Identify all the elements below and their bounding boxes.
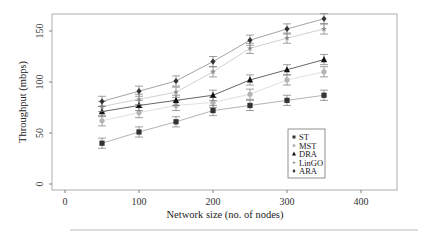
throughput-chart: 0100200300400050100150 STMSTDRALinGOARA … [0,0,432,235]
y-tick-label: 0 [34,182,45,187]
legend: STMSTDRALinGOARA [288,129,325,178]
data-point [321,93,326,98]
x-tick-label: 400 [354,196,369,207]
data-point [99,98,104,104]
x-tick-label: 0 [63,196,68,207]
data-point [173,78,178,84]
data-point [173,119,178,124]
legend-marker-st [293,136,296,139]
y-tick-label: 100 [34,75,45,90]
data-point [210,59,215,65]
y-tick-label: 150 [34,24,45,39]
data-point [321,16,326,22]
data-point [210,108,215,113]
data-point [321,56,327,62]
data-point [136,129,141,134]
x-tick-label: 200 [206,196,221,207]
data-point [247,92,252,97]
x-axis-label: Network size (no. of nodes) [167,209,284,221]
data-point [321,69,326,74]
data-point [284,26,289,32]
data-point [247,37,252,43]
x-tick-label: 100 [132,196,147,207]
y-tick-label: 50 [34,128,45,138]
data-point [136,88,141,94]
data-point [99,141,104,146]
x-tick-label: 300 [280,196,295,207]
data-point [284,77,289,82]
y-axis-label: Throughput (mbps) [17,61,29,143]
data-point [99,118,104,123]
series-layer [98,14,328,149]
data-point [284,98,289,103]
legend-label-ara: ARA [299,166,318,176]
data-point [247,103,252,108]
legend-marker-mst [293,144,296,147]
